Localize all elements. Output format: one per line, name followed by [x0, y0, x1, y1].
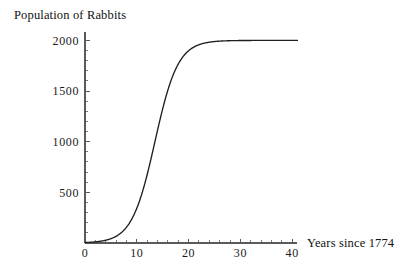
y-axis — [85, 32, 90, 243]
x-tick-label: 20 — [182, 246, 195, 260]
y-tick-label: 2000 — [53, 34, 79, 48]
x-tick-label: 0 — [82, 246, 89, 260]
x-tick-label: 10 — [130, 246, 143, 260]
chart-figure: Population of Rabbits 500100015002000 01… — [0, 0, 404, 277]
population-curve — [85, 40, 297, 242]
y-tick-label: 500 — [59, 186, 79, 200]
data-series-line — [85, 40, 297, 242]
x-tick-label: 40 — [286, 246, 299, 260]
x-tick-labels: 010203040 — [82, 246, 299, 260]
y-tick-label: 1500 — [53, 84, 79, 98]
y-tick-label: 1000 — [53, 135, 79, 149]
x-tick-label: 30 — [234, 246, 247, 260]
x-axis-title: Years since 1774 — [307, 236, 394, 251]
y-tick-labels: 500100015002000 — [53, 34, 79, 200]
x-axis — [85, 239, 297, 244]
